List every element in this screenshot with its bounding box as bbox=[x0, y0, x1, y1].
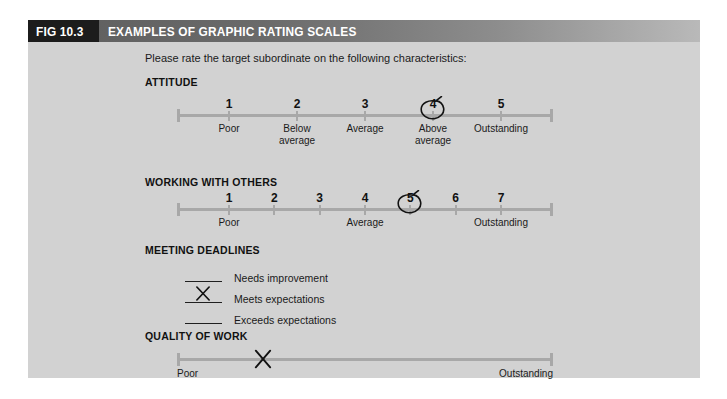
scale-point-4[interactable]: 4 bbox=[427, 98, 440, 111]
scale-label-left: Poor bbox=[177, 368, 198, 379]
scale-point-7[interactable]: 7 bbox=[495, 192, 508, 205]
scale-point-2[interactable]: 2 bbox=[291, 98, 304, 111]
section-heading-quality-of-work: QUALITY OF WORK bbox=[145, 330, 248, 342]
handwritten-x-mark bbox=[195, 285, 212, 302]
scale-tick bbox=[228, 110, 230, 121]
scale-endcap-left bbox=[177, 109, 180, 122]
scale-point-label: Average bbox=[346, 217, 383, 229]
scale-tick bbox=[432, 110, 434, 121]
scale-point-label: Outstanding bbox=[474, 123, 528, 135]
scale-endcap-left bbox=[177, 203, 180, 216]
scale-tick bbox=[319, 204, 321, 215]
checklist-option-label: Needs improvement bbox=[234, 272, 328, 284]
scale-point-1[interactable]: 1 bbox=[223, 98, 236, 111]
scale-point-label: Average bbox=[346, 123, 383, 135]
checklist-blank-line[interactable] bbox=[185, 281, 222, 283]
scale-endcap-left bbox=[177, 353, 180, 366]
figure-number: FIG 10.3 bbox=[28, 20, 99, 42]
section-heading-working-with-others: WORKING WITH OTHERS bbox=[145, 176, 277, 188]
scale-tick bbox=[228, 204, 230, 215]
scale-point-3[interactable]: 3 bbox=[313, 192, 326, 205]
scale-point-label: Outstanding bbox=[474, 217, 528, 229]
figure-panel: FIG 10.3 EXAMPLES OF GRAPHIC RATING SCAL… bbox=[28, 20, 700, 378]
scale-tick bbox=[500, 110, 502, 121]
scale-point-3[interactable]: 3 bbox=[359, 98, 372, 111]
scale-point-2[interactable]: 2 bbox=[268, 192, 281, 205]
scale-tick bbox=[296, 110, 298, 121]
figure-title: EXAMPLES OF GRAPHIC RATING SCALES bbox=[99, 20, 390, 42]
figure-header-bar: FIG 10.3 EXAMPLES OF GRAPHIC RATING SCAL… bbox=[28, 20, 700, 42]
scale-tick bbox=[455, 204, 457, 215]
scale-point-label: Poor bbox=[218, 123, 239, 135]
instruction-text: Please rate the target subordinate on th… bbox=[145, 52, 467, 64]
scale-point-4[interactable]: 4 bbox=[359, 192, 372, 205]
figure-body: Please rate the target subordinate on th… bbox=[28, 42, 700, 378]
checklist-option-label: Meets expectations bbox=[234, 293, 324, 305]
scale-axis-line bbox=[177, 358, 553, 361]
scale-point-5[interactable]: 5 bbox=[404, 192, 417, 205]
scale-point-label: Aboveaverage bbox=[415, 123, 451, 147]
scale-endcap-right bbox=[550, 203, 553, 216]
scale-label-right: Outstanding bbox=[499, 368, 553, 379]
section-heading-meeting-deadlines: MEETING DEADLINES bbox=[145, 244, 260, 256]
figure-number-label: FIG 10.3 bbox=[36, 24, 84, 39]
scale-point-6[interactable]: 6 bbox=[449, 192, 462, 205]
scale-tick bbox=[273, 204, 275, 215]
scale-endcap-right bbox=[550, 353, 553, 366]
checklist-blank-line[interactable] bbox=[185, 323, 222, 325]
scale-tick bbox=[409, 204, 411, 215]
scale-point-1[interactable]: 1 bbox=[223, 192, 236, 205]
scale-point-5[interactable]: 5 bbox=[495, 98, 508, 111]
section-heading-attitude: ATTITUDE bbox=[145, 76, 198, 88]
scale-endcap-right bbox=[550, 109, 553, 122]
scale-point-label: Belowaverage bbox=[279, 123, 315, 147]
scale-tick bbox=[364, 110, 366, 121]
handwritten-x-mark bbox=[253, 348, 273, 370]
figure-title-label: EXAMPLES OF GRAPHIC RATING SCALES bbox=[108, 24, 356, 39]
scale-tick bbox=[500, 204, 502, 215]
scale-tick bbox=[364, 204, 366, 215]
checklist-option-label: Exceeds expectations bbox=[234, 314, 336, 326]
scale-point-label: Poor bbox=[218, 217, 239, 229]
